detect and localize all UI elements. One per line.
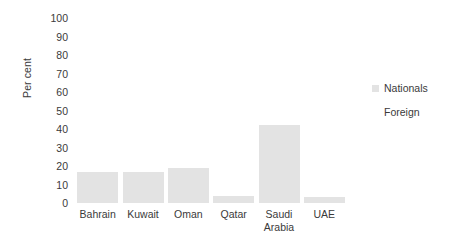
bar-group [168,18,209,203]
bar-group [77,18,118,203]
y-axis-tick-0: 0 [42,198,68,208]
x-axis-label-line: UAE [296,208,353,221]
legend-label: Nationals [384,82,428,94]
bar [77,172,118,203]
legend-swatch-icon [372,109,379,116]
y-axis-tick-20: 20 [42,161,68,171]
legend-item[interactable]: Foreign [372,106,458,130]
bar-group [213,18,254,203]
bar [304,197,345,203]
y-axis-tick-30: 30 [42,143,68,153]
y-axis-tick-80: 80 [42,50,68,60]
x-axis-label-line: Arabia [250,221,307,234]
bar-group [304,18,345,203]
x-axis-tick-label: UAE [296,208,353,221]
y-axis-tick-60: 60 [42,87,68,97]
plot-area [75,18,347,203]
x-axis-tick-labels: BahrainKuwaitOmanQatarSaudiArabiaUAE [75,208,347,248]
y-axis-tick-100: 100 [42,13,68,23]
bar-group [123,18,164,203]
legend-item[interactable]: Nationals [372,82,458,106]
y-axis-title: Per cent [21,43,33,113]
y-axis-tick-90: 90 [42,32,68,42]
bar [123,172,164,203]
chart-legend: NationalsForeign [372,82,458,130]
y-axis-tick-labels: 1009080706050403020100 [42,0,68,248]
y-axis-tick-70: 70 [42,69,68,79]
bar [168,168,209,203]
bar [259,125,300,203]
y-axis-tick-10: 10 [42,180,68,190]
bar-group [259,18,300,203]
y-axis-tick-50: 50 [42,106,68,116]
bar-chart: Per cent 1009080706050403020100 BahrainK… [0,0,458,248]
y-axis-tick-40: 40 [42,124,68,134]
bar [213,196,254,203]
legend-swatch-icon [372,85,379,92]
legend-label: Foreign [384,106,420,118]
